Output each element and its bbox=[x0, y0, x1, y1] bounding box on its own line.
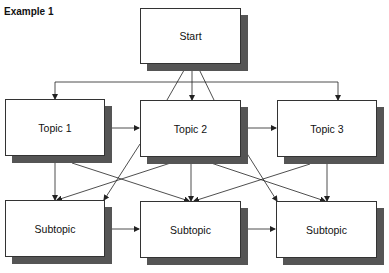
node-start-label: Start bbox=[179, 30, 201, 42]
node-subtopic2-box: Subtopic bbox=[140, 201, 241, 258]
node-topic3-box: Topic 3 bbox=[277, 100, 377, 157]
node-topic1-box: Topic 1 bbox=[5, 99, 105, 156]
node-subtopic2-label: Subtopic bbox=[170, 224, 211, 236]
node-subtopic1-label: Subtopic bbox=[35, 223, 76, 235]
edge-topic3-subtopic2 bbox=[194, 164, 310, 201]
node-subtopic1-box: Subtopic bbox=[5, 200, 105, 257]
edge-topic1-subtopic2 bbox=[72, 163, 189, 201]
node-topic1-label: Topic 1 bbox=[38, 122, 71, 134]
node-topic3-label: Topic 3 bbox=[310, 123, 343, 135]
node-topic2-label: Topic 2 bbox=[174, 123, 207, 135]
node-start-box: Start bbox=[140, 8, 241, 64]
node-topic2-box: Topic 2 bbox=[140, 100, 241, 157]
node-subtopic3-box: Subtopic bbox=[276, 201, 377, 258]
node-subtopic3-label: Subtopic bbox=[306, 224, 347, 236]
